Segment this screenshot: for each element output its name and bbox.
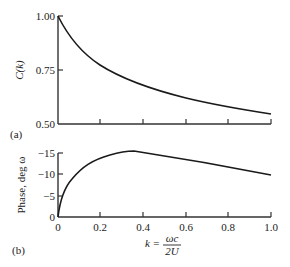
y-axis-title-b: Phase, deg ω xyxy=(15,156,27,213)
y-axis-title-a: C(k) xyxy=(13,60,26,80)
y-tick-label: −10 xyxy=(38,168,56,180)
x-tick-label: 0.2 xyxy=(93,221,107,233)
x-tick-label: 0.4 xyxy=(136,221,150,233)
y-tick-label: 0.50 xyxy=(36,118,56,130)
y-tick-label: −5 xyxy=(43,190,55,202)
y-tick-label: 1.00 xyxy=(36,10,56,22)
x-label-lhs: k = xyxy=(145,237,160,249)
x-tick-label: 0.6 xyxy=(179,221,193,233)
y-tick-label: 0.75 xyxy=(36,64,56,76)
figure: 1.00 0.75 0.50 C(k) (a) −15 −10 −5 0 0 0… xyxy=(0,0,290,267)
panel-label-b: (b) xyxy=(12,244,25,257)
x-label-denominator: 2U xyxy=(165,245,180,257)
x-tick-label: 0.8 xyxy=(221,221,235,233)
panel-a: 1.00 0.75 0.50 C(k) (a) xyxy=(10,10,271,141)
x-label-numerator: ωc xyxy=(166,232,179,244)
panel-label-a: (a) xyxy=(10,128,23,141)
c-k-curve xyxy=(58,16,271,114)
x-axis-title-b: k = ωc 2U xyxy=(145,232,181,257)
y-tick-label: −15 xyxy=(38,147,56,159)
x-tick-label: 1.0 xyxy=(264,221,278,233)
phase-curve xyxy=(58,151,271,217)
x-tick-label: 0 xyxy=(55,221,61,233)
panel-b: −15 −10 −5 0 0 0.2 0.4 0.6 0.8 1.0 Phase… xyxy=(12,147,278,257)
